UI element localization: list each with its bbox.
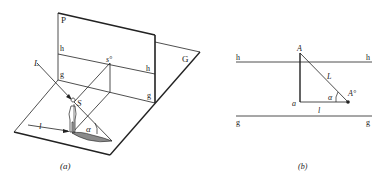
- ground-plane-front-edge: [14, 132, 110, 155]
- label-g-right-a: g: [147, 91, 151, 100]
- sun-to-object-line: [74, 63, 110, 102]
- label-hypotenuse-L: L: [326, 72, 332, 81]
- picture-plane-top-edge: [58, 13, 155, 35]
- label-point-a: a: [292, 99, 296, 108]
- label-h-right-a: h: [146, 64, 150, 73]
- label-point-A0: A°: [347, 89, 357, 98]
- hypotenuse-L: [300, 53, 348, 102]
- angle-arc-a: [95, 123, 97, 134]
- label-sun-ray-L: L: [33, 58, 39, 68]
- label-h-left-a: h: [60, 44, 64, 53]
- label-base-l: l: [318, 106, 321, 115]
- caption-b: (b): [298, 162, 308, 171]
- shadow-direction-arrow: [28, 125, 68, 131]
- angle-arc-b: [336, 92, 338, 102]
- label-plane-p: P: [61, 15, 66, 25]
- shadow-direction-arrowhead: [63, 129, 70, 133]
- point-A0-marker: [346, 100, 350, 104]
- figure-b: [236, 53, 372, 116]
- object-shadow: [72, 132, 112, 141]
- label-h-right-b: h: [366, 53, 370, 62]
- ground-plane-left-edge: [14, 80, 58, 132]
- label-object-S: S: [77, 98, 82, 108]
- figure-b-labels: h h g g A a A° L l α (b): [236, 44, 370, 171]
- figure-a: [14, 13, 200, 155]
- label-sun-point: s°: [106, 55, 113, 64]
- ground-plane-back-edge: [155, 42, 200, 52]
- figure-a-labels: P G h h g g L s° l S α (a): [33, 15, 189, 171]
- label-angle-b: α: [328, 93, 333, 102]
- diagram-canvas: P G h h g g L s° l S α (a) h h g g A a A…: [0, 0, 380, 179]
- sun-ray-L: [37, 63, 72, 100]
- label-shadow-length-l: l: [39, 121, 42, 131]
- label-g-left-b: g: [236, 118, 240, 127]
- label-g-right-b: g: [366, 118, 370, 127]
- label-g-left-a: g: [60, 70, 64, 79]
- label-point-A: A: [296, 44, 302, 53]
- label-h-left-b: h: [236, 53, 240, 62]
- label-plane-g: G: [182, 54, 189, 64]
- caption-a: (a): [60, 161, 71, 171]
- label-angle-a: α: [86, 124, 91, 134]
